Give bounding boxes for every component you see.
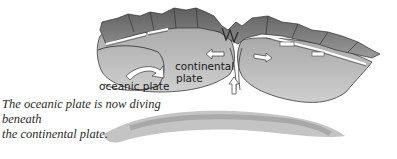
continental-plate-label-line2: plate (176, 72, 203, 84)
oceanic-plate-label: oceanic plate (99, 80, 169, 92)
continental-plate-label-line1: continental (175, 60, 234, 72)
diagram-caption: The oceanic plate is now diving beneath … (2, 97, 202, 142)
caption-line-1: The oceanic plate is now diving beneath (2, 97, 202, 127)
caption-line-2: the continental plate. (2, 127, 202, 142)
arrow-up-icon (229, 77, 239, 94)
